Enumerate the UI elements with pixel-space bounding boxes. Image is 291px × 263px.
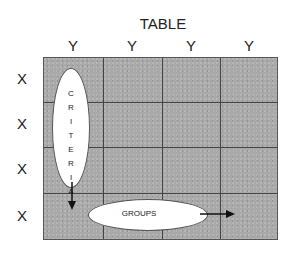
down-arrowhead-icon: [68, 201, 76, 210]
right-arrowhead-icon: [226, 210, 235, 218]
arrows: [0, 0, 291, 263]
